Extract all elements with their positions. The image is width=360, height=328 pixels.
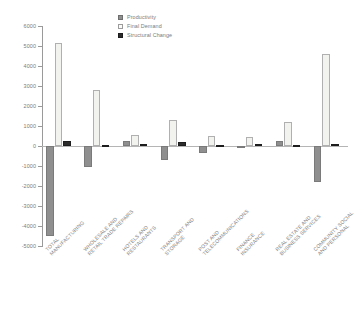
bar-structural xyxy=(293,145,301,147)
bar-final xyxy=(284,122,292,146)
bar-productivity xyxy=(276,141,284,146)
bar-structural xyxy=(63,141,71,146)
bar-productivity xyxy=(199,146,207,153)
y-tick-label: 6000 xyxy=(24,23,36,29)
bar-group xyxy=(161,26,199,246)
y-tick-label: 0 xyxy=(33,143,36,149)
bar-structural xyxy=(255,144,263,146)
y-tick-label: 3000 xyxy=(24,83,36,89)
legend-swatch-productivity xyxy=(118,15,123,20)
bar-final xyxy=(131,135,139,146)
x-axis-labels: TOTALMANUFACTURINGWHOLESALE ANDRETAIL TR… xyxy=(42,248,348,326)
bar-final xyxy=(246,137,254,146)
y-tick-label: 2000 xyxy=(24,103,36,109)
bar-productivity xyxy=(123,141,131,146)
bar-structural xyxy=(216,145,224,147)
y-tick-label: 5000 xyxy=(24,43,36,49)
bar-final xyxy=(208,136,216,146)
bar-structural xyxy=(178,142,186,146)
legend-item-productivity: Productivity xyxy=(118,13,172,21)
y-tick-label: -3000 xyxy=(22,203,36,209)
bar-final xyxy=(93,90,101,146)
bar-productivity xyxy=(46,146,54,236)
plot-area: 6000500040003000200010000-1000-2000-3000… xyxy=(42,26,348,246)
y-tick-label: -2000 xyxy=(22,183,36,189)
bar-group xyxy=(46,26,84,246)
bar-productivity xyxy=(161,146,169,160)
bar-productivity xyxy=(237,146,245,148)
y-tick-label: -1000 xyxy=(22,163,36,169)
grouped-bar-chart: Productivity Final Demand Structural Cha… xyxy=(0,0,360,328)
legend-label-productivity: Productivity xyxy=(127,14,156,20)
y-tick xyxy=(38,246,43,247)
bar-final xyxy=(322,54,330,146)
bar-productivity xyxy=(314,146,322,182)
bar-structural xyxy=(140,144,148,146)
bar-final xyxy=(169,120,177,146)
y-tick-label: 1000 xyxy=(24,123,36,129)
y-tick-label: -5000 xyxy=(22,243,36,249)
y-tick-label: 4000 xyxy=(24,63,36,69)
bar-final xyxy=(55,43,63,146)
bar-productivity xyxy=(84,146,92,167)
bar-structural xyxy=(331,144,339,146)
bar-groups xyxy=(42,26,348,246)
bar-structural xyxy=(102,145,110,147)
y-tick-label: -4000 xyxy=(22,223,36,229)
